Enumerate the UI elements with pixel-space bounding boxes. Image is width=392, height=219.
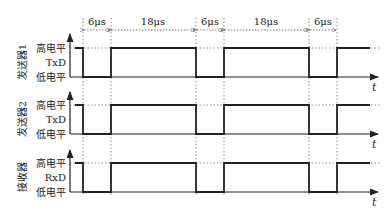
waveform <box>75 48 370 77</box>
dimension-labels: 6μs 18μs 6μs 18μs 6μs <box>88 16 332 27</box>
waveform <box>75 105 370 134</box>
channel-name: 发送器2 <box>16 101 28 137</box>
dim-label-2: 18μs <box>141 16 165 27</box>
low-level-label: 低电平 <box>36 128 66 140</box>
channel-receiver: 高电平 RxD 低电平 接收器 t <box>16 150 380 209</box>
signal-label: TxD <box>46 57 66 68</box>
dim-label-1: 6μs <box>88 16 106 27</box>
time-axis-label: t <box>372 81 377 94</box>
high-level-label: 高电平 <box>36 157 66 169</box>
channel-transmitter-1: 高电平 TxD 低电平 发送器1 t <box>16 34 380 94</box>
low-level-label: 低电平 <box>36 186 66 198</box>
dim-label-4: 18μs <box>254 16 278 27</box>
high-level-label: 高电平 <box>36 99 66 111</box>
guide-lines <box>83 18 337 195</box>
timing-diagram: 6μs 18μs 6μs 18μs 6μs 高电平 TxD 低电平 发送器1 t… <box>0 0 392 219</box>
high-level-label: 高电平 <box>36 42 66 54</box>
channel-name: 接收器 <box>16 162 28 192</box>
time-axis-label: t <box>372 196 377 209</box>
waveform <box>75 163 370 192</box>
dim-label-5: 6μs <box>314 16 332 27</box>
channel-name: 发送器1 <box>16 44 28 80</box>
signal-label: TxD <box>46 114 66 125</box>
channel-transmitter-2: 高电平 TxD 低电平 发送器2 t <box>16 92 380 151</box>
signal-label: RxD <box>45 172 66 183</box>
time-axis-label: t <box>372 138 377 151</box>
low-level-label: 低电平 <box>36 71 66 83</box>
dim-label-3: 6μs <box>201 16 219 27</box>
